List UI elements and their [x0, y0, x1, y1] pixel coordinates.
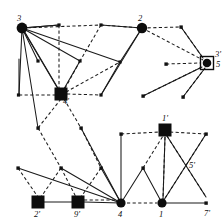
node-1-prime[interactable] — [159, 124, 172, 137]
edge-solid — [167, 136, 206, 197]
node-dot[interactable] — [204, 201, 207, 204]
graph-diagram-figure: 3 2 5 3' 4' 1' 5' 2' 9' 4 1 7' — [0, 0, 224, 223]
node-1[interactable] — [157, 198, 166, 207]
node-dot[interactable] — [99, 93, 102, 96]
edge-dashed — [142, 27, 181, 28]
label-node-3-prime: 3' — [214, 49, 221, 59]
edge-solid — [84, 202, 121, 203]
node-dot[interactable] — [59, 166, 62, 169]
edge-dashed — [142, 28, 203, 60]
label-node-7-prime: 7' — [204, 208, 210, 218]
node-5[interactable] — [203, 59, 212, 68]
label-node-5: 5 — [216, 59, 220, 69]
edge-dashed — [18, 168, 38, 197]
node-dot[interactable] — [17, 93, 20, 96]
edge-group-top-left — [19, 25, 142, 128]
edge-dashed — [162, 134, 206, 203]
edge-solid — [143, 67, 202, 96]
edge-solid — [143, 168, 162, 203]
node-dot[interactable] — [141, 94, 144, 97]
node-dot[interactable] — [179, 25, 182, 28]
node-dot[interactable] — [204, 132, 207, 135]
node-dot[interactable] — [79, 126, 82, 129]
edge-dashed — [143, 136, 163, 168]
label-node-2-prime: 2' — [34, 209, 40, 219]
edge-solid — [121, 168, 143, 203]
node-dot[interactable] — [57, 23, 60, 26]
edge-solid — [163, 137, 165, 199]
edge-dashed — [41, 168, 61, 197]
edge-group-top-right — [22, 25, 205, 97]
node-9-prime[interactable] — [72, 196, 85, 209]
node-dot[interactable] — [36, 126, 39, 129]
edge-solid — [22, 28, 80, 61]
edge-group-middle — [38, 128, 121, 203]
node-dot[interactable] — [118, 60, 121, 63]
edge-dashed — [38, 99, 61, 128]
edge-dashed — [67, 94, 101, 95]
label-node-3: 3 — [16, 13, 21, 23]
node-4[interactable] — [116, 198, 125, 207]
label-node-5-prime: 5' — [189, 160, 195, 170]
node-3[interactable] — [17, 23, 28, 34]
node-dot[interactable] — [119, 132, 122, 135]
edge-dashed — [166, 63, 200, 64]
node-dot[interactable] — [99, 166, 102, 169]
edge-solid — [22, 28, 38, 128]
edge-solid — [101, 25, 142, 28]
node-2-prime[interactable] — [32, 196, 45, 209]
node-dot[interactable] — [78, 59, 81, 62]
edge-dashed — [81, 128, 101, 168]
edge-dashed — [170, 132, 206, 134]
label-node-4: 4 — [118, 209, 123, 219]
node-dot[interactable] — [36, 59, 39, 62]
edge-dashed — [121, 132, 160, 134]
label-node-1-prime: 1' — [162, 113, 168, 123]
node-dot[interactable] — [99, 23, 102, 26]
label-node-1: 1 — [159, 209, 163, 219]
node-dot[interactable] — [181, 95, 184, 98]
edge-dashed — [80, 25, 101, 61]
graph-canvas: 3 2 5 3' 4' 1' 5' 2' 9' 4 1 7' — [0, 0, 224, 223]
node-2[interactable] — [137, 23, 147, 33]
node-dot[interactable] — [16, 166, 19, 169]
edge-solid — [22, 28, 120, 62]
edge-dashed — [38, 128, 61, 168]
label-node-2: 2 — [138, 13, 143, 23]
node-dot[interactable] — [141, 166, 144, 169]
label-node-4-prime: 4' — [63, 96, 69, 106]
edge-solid — [23, 29, 62, 95]
node-dot[interactable] — [164, 62, 167, 65]
label-node-9-prime: 9' — [74, 209, 80, 219]
